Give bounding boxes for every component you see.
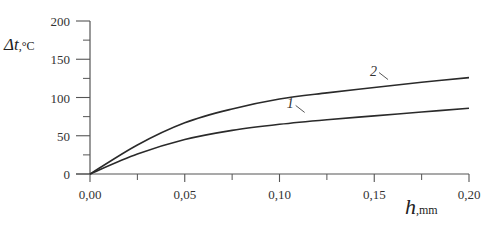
y-tick-label: 100	[51, 91, 71, 106]
y-axis-symbol: Δt	[3, 35, 20, 54]
curve-1	[90, 108, 469, 174]
y-tick-label: 50	[57, 129, 70, 144]
axes	[76, 21, 469, 174]
y-tick-label: 150	[51, 52, 71, 67]
leader-line	[296, 105, 305, 112]
leader-line	[379, 73, 388, 80]
curve-label-1: 1	[287, 96, 294, 111]
x-tick-label: 0,20	[458, 187, 481, 202]
y-tick-label: 0	[64, 167, 71, 182]
curve-label-2: 2	[370, 64, 377, 79]
x-axis-label: h,mm	[405, 194, 438, 219]
x-axis-unit: ,mm	[416, 203, 438, 217]
x-axis-symbol: h	[405, 194, 416, 219]
x-tick-label: 0,00	[79, 187, 102, 202]
x-tick-label: 0,10	[268, 187, 291, 202]
x-tick-label: 0,15	[363, 187, 386, 202]
y-axis-label: Δt,°C	[3, 35, 35, 54]
x-tick-label: 0,05	[173, 187, 196, 202]
curve-2	[90, 78, 469, 174]
y-tick-label: 200	[51, 14, 71, 29]
y-axis-unit: ,°C	[19, 39, 35, 53]
curves	[90, 78, 469, 174]
chart: 0501001502000,000,050,100,150,20 12 Δt,°…	[0, 0, 504, 229]
